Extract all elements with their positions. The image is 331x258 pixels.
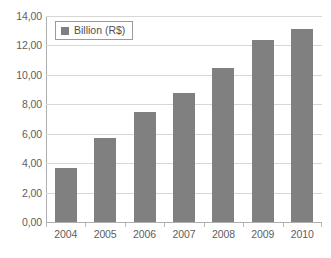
bar: [212, 68, 234, 223]
bar: [134, 112, 156, 222]
x-tick-label: 2007: [164, 229, 203, 240]
x-tickmark: [164, 223, 165, 227]
y-tick-label: 14,00: [2, 11, 42, 22]
x-tick-label: 2005: [85, 229, 124, 240]
legend-label: Billion (R$): [74, 25, 125, 36]
y-tick-label: 0,00: [2, 217, 42, 228]
y-tick-label: 8,00: [2, 99, 42, 110]
x-tick-label: 2010: [283, 229, 322, 240]
x-tickmark: [243, 223, 244, 227]
bar: [291, 29, 313, 222]
gridline: [46, 75, 322, 76]
gridline: [46, 45, 322, 46]
x-tickmark: [321, 223, 322, 227]
y-tick-label: 4,00: [2, 158, 42, 169]
x-tick-label: 2008: [204, 229, 243, 240]
x-tick-label: 2009: [243, 229, 282, 240]
x-tick-label: 2006: [125, 229, 164, 240]
x-tickmark: [85, 223, 86, 227]
bar: [94, 138, 116, 222]
x-tickmark: [204, 223, 205, 227]
plot-area: [46, 16, 322, 222]
x-tickmark: [283, 223, 284, 227]
x-tick-label: 2004: [46, 229, 85, 240]
x-tickmark: [46, 223, 47, 227]
y-tick-label: 2,00: [2, 188, 42, 199]
gridline: [46, 16, 322, 17]
y-axis-tick-labels: 0,002,004,006,008,0010,0012,0014,00: [0, 0, 42, 258]
bar: [173, 93, 195, 222]
bar: [55, 168, 77, 222]
bar: [252, 40, 274, 222]
y-tick-label: 6,00: [2, 129, 42, 140]
y-tick-label: 10,00: [2, 70, 42, 81]
chart-legend: Billion (R$): [55, 21, 133, 40]
x-tickmark: [125, 223, 126, 227]
bar-chart: 0,002,004,006,008,0010,0012,0014,00 2004…: [0, 0, 331, 258]
x-axis-tick-labels: 2004200520062007200820092010: [46, 229, 322, 245]
y-tick-label: 12,00: [2, 40, 42, 51]
legend-swatch-icon: [61, 27, 69, 35]
